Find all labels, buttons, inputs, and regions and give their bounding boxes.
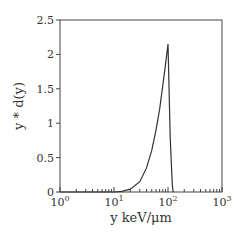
y-tick-label: 1 [47, 117, 54, 130]
y-tick-label: 0.5 [37, 152, 55, 165]
y-axis-label: y * d(y) [11, 82, 26, 131]
y-tick-label: 2.5 [37, 14, 55, 27]
x-tick-label: 103 [212, 194, 231, 209]
x-tick-label: 100 [50, 194, 69, 209]
x-axis-label: y keV/μm [109, 210, 172, 225]
x-tick-label: 102 [158, 194, 177, 209]
y-tick-label: 1.5 [37, 83, 55, 96]
chart: 00.511.522.5 100101102103 y keV/μm y * d… [0, 0, 236, 245]
data-line [60, 44, 173, 192]
plot-frame [60, 20, 222, 192]
y-tick-label: 2 [47, 48, 54, 61]
x-tick-label: 101 [104, 194, 123, 209]
y-axis-ticks: 00.511.522.5 [37, 14, 61, 199]
x-axis-ticks: 100101102103 [50, 187, 231, 209]
